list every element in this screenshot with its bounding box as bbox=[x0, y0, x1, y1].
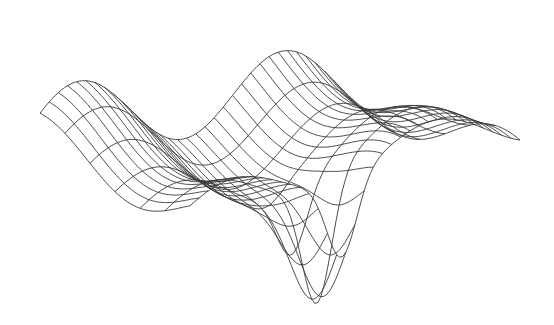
mesh-line bbox=[187, 138, 337, 299]
mesh-line bbox=[178, 140, 328, 265]
mesh-line bbox=[196, 134, 346, 297]
mesh-line bbox=[223, 107, 373, 171]
wireframe-surface-plot bbox=[0, 0, 554, 325]
mesh-line bbox=[40, 51, 370, 140]
mesh-line bbox=[190, 119, 520, 257]
mesh-line bbox=[233, 95, 383, 158]
mesh-line bbox=[58, 93, 208, 195]
mesh-line bbox=[297, 52, 447, 119]
mesh-line bbox=[68, 86, 218, 189]
surface-mesh bbox=[40, 51, 520, 304]
mesh-line bbox=[40, 113, 190, 211]
mesh-line bbox=[49, 102, 199, 203]
mesh-line bbox=[123, 102, 273, 188]
